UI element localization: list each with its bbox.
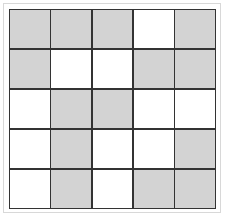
grid-cell <box>175 130 215 168</box>
grid-cell <box>10 90 50 128</box>
grid-cell <box>175 50 215 88</box>
grid-cell <box>134 90 174 128</box>
grid-cell <box>93 50 133 88</box>
grid-cell <box>134 170 174 208</box>
grid-cell <box>51 10 91 48</box>
grid-cell <box>51 130 91 168</box>
grid-cell <box>10 10 50 48</box>
grid-cell <box>51 50 91 88</box>
grid-cell <box>93 170 133 208</box>
grid-cell <box>51 170 91 208</box>
grid-cell <box>93 130 133 168</box>
grid-cell <box>10 130 50 168</box>
grid-cell <box>10 50 50 88</box>
grid-cell <box>134 130 174 168</box>
grid-cell <box>134 50 174 88</box>
grid-cell <box>93 90 133 128</box>
grid-cell <box>10 170 50 208</box>
grid-cell <box>134 10 174 48</box>
shaded-grid <box>9 9 216 209</box>
grid-cell <box>175 170 215 208</box>
grid-cell <box>175 90 215 128</box>
grid-cell <box>93 10 133 48</box>
grid-cell <box>51 90 91 128</box>
grid-cell <box>175 10 215 48</box>
